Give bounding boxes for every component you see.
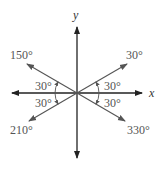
ray-label-210: 210° [10,123,33,137]
ray-label-30: 30° [126,48,143,62]
angle-label-q1: 30° [104,79,121,93]
angle-arc-q2 [55,82,58,93]
y-axis-label: y [72,8,79,22]
x-axis-label: x [148,86,155,100]
angle-label-q4: 30° [104,96,121,110]
angle-diagram: x y 30° 150° 210° 330° 30° 30° 30° 30° [0,0,162,177]
angle-label-q2: 30° [35,79,52,93]
angle-label-q3: 30° [35,96,52,110]
ray-label-150: 150° [10,48,33,62]
angle-arc-q3 [55,93,58,104]
angle-arc-q1 [96,82,99,93]
angle-arc-q4 [96,93,99,104]
ray-label-330: 330° [127,123,150,137]
